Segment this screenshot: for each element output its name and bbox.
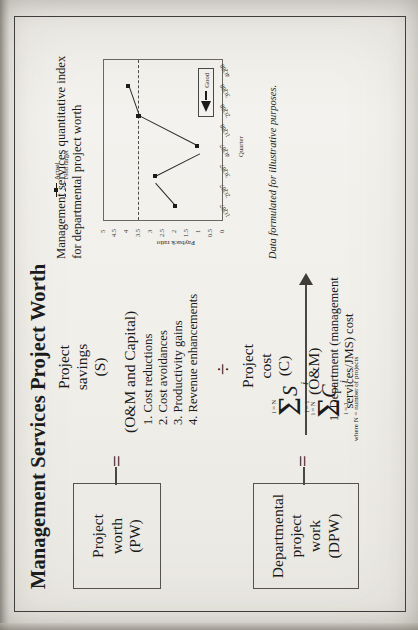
- box-departmental-project-work: Departmental project work (DPW): [253, 483, 359, 589]
- connector-dpw: [303, 467, 305, 485]
- chart-legend: Actual 1988 target: [53, 150, 71, 197]
- footnote: Data formulated for illustrative purpose…: [267, 85, 279, 259]
- chart-point-0: [173, 204, 177, 208]
- legend-item-target: 1988 target: [62, 150, 69, 197]
- savings-item-1: 2. Cost avoidances: [156, 330, 171, 425]
- target-line-1988: [138, 60, 139, 220]
- sigma-numerator: i = N Σ i = 1 S i: [271, 353, 310, 445]
- good-label: Good: [203, 73, 210, 88]
- box-departmental-label: Departmental project work (DPW): [269, 494, 343, 578]
- scan-edge-left: [0, 0, 9, 630]
- chart-point-3: [136, 114, 140, 118]
- ytick-4: 4: [122, 230, 129, 233]
- sigma-denominator: i = N Σ i = 1 C i: [310, 353, 349, 445]
- chart-line-seg-0: [155, 183, 176, 206]
- divide-sign: ÷: [211, 363, 235, 375]
- ytick-1: 1: [194, 230, 201, 233]
- savings-item-0: 1. Cost reductions: [141, 334, 156, 425]
- page-title: Management Services Project Worth: [27, 264, 51, 589]
- rotated-content-group: Management Services Project Worth Projec…: [0, 0, 418, 630]
- legend-marker-actual: [56, 183, 57, 197]
- ytick-0: 0: [218, 230, 225, 233]
- connector-pw: [115, 467, 117, 485]
- ytick-0-5: 0.5: [206, 229, 213, 237]
- sigma-num-term: S: [279, 386, 302, 396]
- legend-item-actual: Actual: [53, 150, 60, 197]
- left-arrow-icon: [201, 101, 211, 112]
- sigma-fraction: i = N Σ i = 1 S i i = N Σ i = 1 C i: [271, 353, 360, 445]
- chart-point-4: [126, 84, 130, 88]
- chart-ylabel: Payback ratio: [157, 239, 195, 247]
- ytick-3-5: 3.5: [134, 229, 141, 237]
- ytick-2: 2: [170, 230, 177, 233]
- chart-line-seg-2: [138, 115, 198, 146]
- good-direction-annotation: Good: [198, 68, 214, 117]
- slide-frame: Management Services Project Worth Projec…: [14, 16, 406, 612]
- sigma-den-term-sub: i: [337, 380, 349, 383]
- savings-heading: Project savings (S): [55, 319, 109, 415]
- payback-ratio-chart: Good Payback ratio Quarter 0 0.5 1 1.5 2…: [99, 49, 259, 255]
- savings-subheading: (O&M and Capital): [121, 311, 139, 433]
- legend-label-target: 1988 target: [62, 150, 69, 180]
- legend-marker-target: [65, 183, 66, 197]
- box-project-worth-label: Project worth (PW): [89, 514, 145, 558]
- sigma-num-term-sub: i: [298, 382, 310, 385]
- chart-plot-area: Good: [103, 59, 223, 221]
- ytick-2-5: 2.5: [158, 229, 165, 237]
- chart-line-seg-1: [155, 154, 200, 177]
- scanned-slide-page: Management Services Project Worth Projec…: [0, 0, 418, 630]
- ytick-4-5: 4.5: [110, 229, 117, 237]
- arrow-head-to-chart: [299, 273, 313, 285]
- equals-sign-top: =: [105, 455, 129, 467]
- savings-item-3: 4. Revenue enhancements: [186, 294, 201, 425]
- ytick-3: 3: [146, 230, 153, 233]
- chart-point-1: [153, 174, 157, 178]
- sigma-den-symbol: Σ: [314, 399, 345, 418]
- left-arrow-tail: [205, 91, 208, 100]
- chart-point-2: [195, 144, 199, 148]
- box-project-worth: Project worth (PW): [73, 483, 161, 589]
- chart-xlabel: Quarter: [237, 136, 244, 157]
- savings-item-2: 3. Productivity gains: [171, 320, 186, 425]
- legend-label-actual: Actual: [53, 162, 60, 180]
- scan-edge-bottom: [0, 623, 418, 630]
- sigma-num-symbol: Σ: [275, 397, 306, 416]
- formula-note: where N = number of projects: [352, 353, 360, 445]
- sigma-den-term: C: [318, 384, 341, 397]
- ytick-5: 5: [99, 230, 106, 233]
- equals-sign-bottom: =: [291, 455, 315, 467]
- ytick-1-5: 1.5: [182, 229, 189, 237]
